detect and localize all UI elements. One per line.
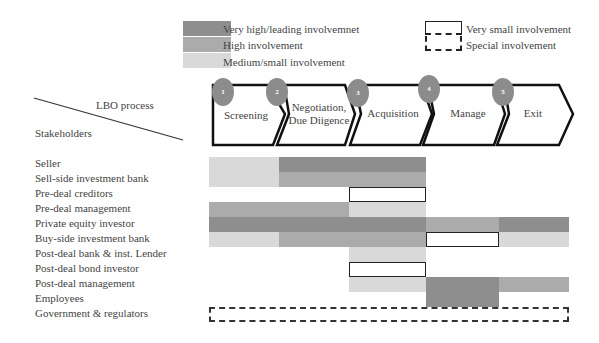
involvement-cell-hi (499, 277, 569, 292)
step-label-acquisition: Acquisition (362, 107, 424, 120)
involvement-cell-vh (499, 217, 569, 232)
involvement-cell-vh (279, 157, 426, 172)
involvement-cell-md (209, 172, 279, 187)
involvement-cell-md (349, 277, 426, 292)
involvement-cell-vs (349, 262, 426, 277)
involvement-cell-vh (209, 217, 426, 232)
stakeholder-label: Private equity investor (35, 216, 135, 231)
step-number-badge-1: 1 (212, 78, 234, 106)
step-label-manage: Manage (440, 107, 496, 120)
stakeholder-label: Post-deal bond investor (35, 261, 139, 276)
stakeholder-label: Post-deal bank & inst. Lender (35, 246, 167, 261)
involvement-cell-hi (279, 172, 426, 187)
step-label-screening: Screening (218, 109, 274, 122)
involvement-cell-vs (349, 187, 426, 202)
involvement-cell-hi (279, 232, 426, 247)
step-number-badge-3: 3 (347, 79, 369, 107)
involvement-cell-md (209, 232, 279, 247)
stakeholder-label: Sell-side investment bank (35, 171, 149, 186)
stakeholder-label: Post-deal management (35, 276, 135, 291)
involvement-cell-vh (426, 277, 499, 292)
stakeholder-label: Pre-deal creditors (35, 186, 113, 201)
involvement-cell-md (209, 157, 279, 172)
involvement-cell-md (349, 202, 426, 217)
stakeholder-label: Employees (35, 291, 84, 306)
step-number-badge-5: 5 (492, 78, 514, 106)
step-number-badge-4: 4 (418, 75, 440, 103)
involvement-cell-md (349, 247, 426, 262)
involvement-cell-hi (209, 202, 349, 217)
step-label-exit: Exit (511, 107, 555, 120)
involvement-cell-sp (209, 307, 569, 322)
involvement-cell-vs (426, 232, 499, 247)
stakeholder-label: Seller (35, 156, 61, 171)
involvement-cell-hi (426, 217, 499, 232)
step-label-negotiation: Negotiation, Due Diigence (288, 101, 350, 127)
stakeholder-label: Buy-side investment bank (35, 231, 150, 246)
involvement-cell-vh (426, 292, 499, 307)
stakeholder-label: Government & regulators (35, 306, 148, 321)
involvement-cell-md (499, 232, 569, 247)
step-number-badge-2: 2 (266, 78, 288, 106)
stakeholder-label: Pre-deal management (35, 201, 131, 216)
